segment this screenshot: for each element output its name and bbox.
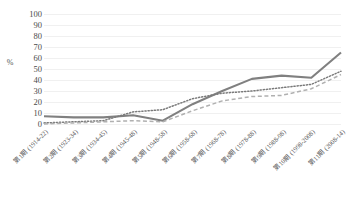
series-lines bbox=[44, 14, 341, 124]
y-axis-tick-label: 90 bbox=[16, 21, 42, 30]
y-axis-tick-label: 30 bbox=[16, 87, 42, 96]
y-axis-tick-label: 40 bbox=[16, 76, 42, 85]
line-chart: % 1009080706050403020100 第1期 (1914-22)第2… bbox=[0, 0, 346, 205]
y-axis-tick-label: 70 bbox=[16, 43, 42, 52]
y-axis-tick-label: 80 bbox=[16, 32, 42, 41]
y-axis-tick-label: 50 bbox=[16, 65, 42, 74]
y-axis-tick-labels: 1009080706050403020100 bbox=[16, 0, 42, 135]
plot-area bbox=[44, 14, 341, 124]
series-line-series-dotted bbox=[44, 71, 341, 123]
y-axis-tick-label: 20 bbox=[16, 98, 42, 107]
y-axis-title: % bbox=[3, 58, 17, 68]
x-axis-tick-labels: 第1期 (1914-22)第2期 (1923-34)第3期 (1934-45)第… bbox=[0, 124, 346, 205]
y-axis-tick-label: 60 bbox=[16, 54, 42, 63]
y-axis-tick-label: 100 bbox=[16, 10, 42, 19]
y-axis-tick-label: 10 bbox=[16, 109, 42, 118]
series-line-series-solid bbox=[44, 53, 341, 121]
